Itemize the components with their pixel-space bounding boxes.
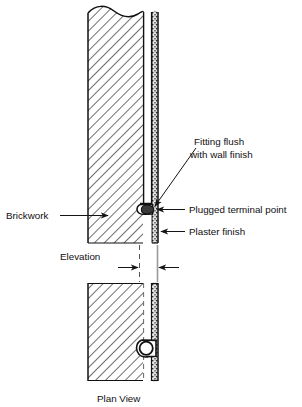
- plan-brickwork-hatch: [88, 283, 143, 381]
- elevation-view-group: [88, 6, 158, 243]
- elevation-conduit-chase: [143, 12, 152, 208]
- label-plaster-finish: Plaster finish: [189, 226, 245, 237]
- elevation-terminal-plug: [141, 205, 153, 214]
- label-elevation: Elevation: [60, 251, 100, 262]
- plan-terminal-outlet-circle: [140, 342, 153, 355]
- technical-drawing-figure: Brickwork Fitting flush with wall finish…: [0, 0, 302, 407]
- label-brickwork: Brickwork: [6, 210, 49, 221]
- drawing-canvas: Brickwork Fitting flush with wall finish…: [0, 0, 302, 407]
- label-fitting-flush-line2: with wall finish: [189, 149, 253, 160]
- dimension-group: [118, 245, 179, 282]
- label-plan-view: Plan View: [97, 393, 141, 404]
- label-fitting-flush-line1: Fitting flush: [194, 136, 244, 147]
- elevation-brickwork-hatch: [88, 6, 143, 243]
- plan-view-group: [88, 283, 158, 381]
- plan-conduit-chase: [143, 283, 152, 381]
- label-plugged-terminal-point: Plugged terminal point: [189, 204, 287, 215]
- plan-plaster-finish: [152, 283, 158, 381]
